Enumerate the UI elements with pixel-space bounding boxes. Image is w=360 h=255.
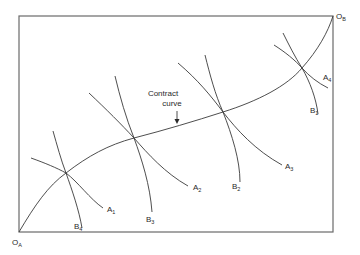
contract-curve — [19, 16, 333, 232]
indifference-curve-a1 — [31, 158, 103, 208]
origin-a-label: OA — [12, 238, 22, 248]
indifference-curve-a3 — [178, 63, 282, 165]
label-b2: B2 — [232, 182, 240, 192]
indifference-curve-b3 — [115, 76, 152, 212]
label-a3: A3 — [285, 162, 293, 172]
label-a2: A2 — [193, 183, 201, 193]
label-a1: A1 — [107, 205, 115, 215]
arrow-head-icon — [175, 119, 180, 124]
contract-curve-label-line1: Contract — [148, 89, 179, 98]
edgeworth-box-frame — [19, 16, 333, 232]
origin-b-label: OB — [336, 12, 346, 22]
indifference-curve-b2 — [205, 55, 240, 182]
label-a4: A4 — [323, 73, 331, 83]
label-b3: B3 — [146, 215, 154, 225]
edgeworth-box-diagram: OA OB Contract curve A1 B4 A2 B3 A3 B2 A… — [0, 0, 360, 255]
indifference-curve-b1 — [283, 33, 318, 114]
contract-curve-label-line2: curve — [162, 99, 182, 108]
